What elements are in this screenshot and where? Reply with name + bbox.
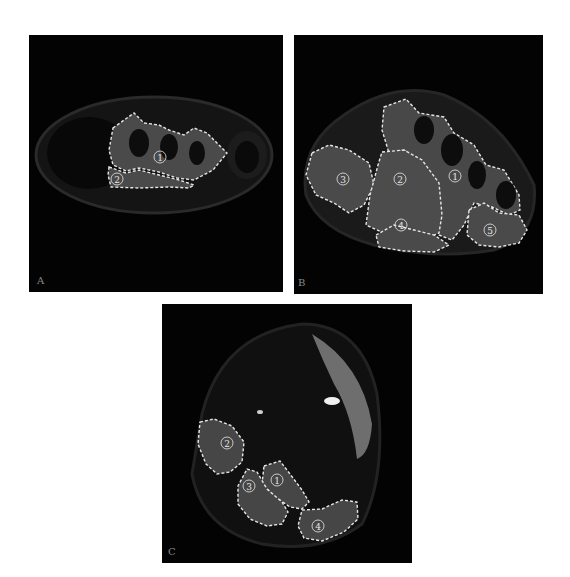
svg-text:1: 1 xyxy=(274,476,280,486)
panel-letter-c: C xyxy=(168,546,176,557)
mri-slice-a: 1 2 xyxy=(29,35,283,292)
svg-text:2: 2 xyxy=(224,439,230,449)
panel-b: 3 2 1 4 5 B xyxy=(294,35,543,294)
svg-text:3: 3 xyxy=(340,175,346,185)
panel-a: 1 2 A xyxy=(29,35,283,292)
panel-letter-a: A xyxy=(37,275,44,286)
mri-slice-b: 3 2 1 4 5 xyxy=(294,35,543,294)
svg-text:4: 4 xyxy=(315,522,321,532)
svg-text:2: 2 xyxy=(114,175,120,185)
svg-text:3: 3 xyxy=(246,482,252,492)
svg-text:1: 1 xyxy=(157,153,163,163)
svg-text:2: 2 xyxy=(397,175,403,185)
mri-slice-c: 2 1 3 4 xyxy=(162,304,412,563)
panel-c: 2 1 3 4 C xyxy=(162,304,412,563)
svg-text:1: 1 xyxy=(452,172,458,182)
panel-letter-b: B xyxy=(298,277,305,288)
svg-text:4: 4 xyxy=(398,221,404,231)
svg-text:5: 5 xyxy=(487,226,493,236)
